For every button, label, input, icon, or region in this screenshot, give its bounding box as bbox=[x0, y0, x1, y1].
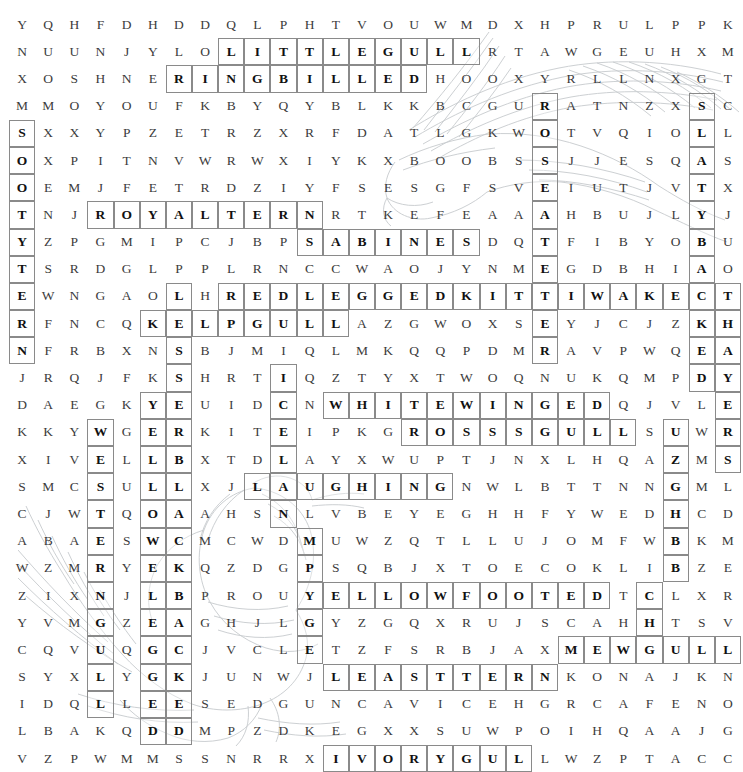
grid-cell[interactable]: E bbox=[610, 500, 636, 527]
grid-cell[interactable]: I bbox=[140, 229, 166, 256]
grid-cell[interactable]: Y bbox=[558, 500, 584, 527]
grid-cell[interactable]: V bbox=[715, 609, 741, 636]
grid-cell[interactable]: S bbox=[636, 147, 662, 174]
grid-cell[interactable]: U bbox=[114, 473, 140, 500]
grid-cell[interactable]: X bbox=[689, 38, 715, 65]
grid-cell[interactable]: S bbox=[401, 174, 427, 201]
grid-cell[interactable]: N bbox=[636, 473, 662, 500]
grid-cell[interactable]: X bbox=[114, 337, 140, 364]
grid-cell[interactable]: V bbox=[61, 446, 87, 473]
grid-cell[interactable]: F bbox=[35, 310, 61, 337]
grid-cell[interactable]: U bbox=[584, 174, 610, 201]
grid-cell[interactable]: C bbox=[218, 528, 244, 555]
grid-cell[interactable]: Y bbox=[87, 120, 113, 147]
grid-cell[interactable]: A bbox=[375, 120, 401, 147]
grid-cell-highlighted[interactable]: D bbox=[401, 65, 427, 92]
grid-cell-highlighted[interactable]: T bbox=[453, 664, 479, 691]
grid-cell[interactable]: U bbox=[610, 201, 636, 228]
grid-cell[interactable]: H bbox=[636, 256, 662, 283]
grid-cell-highlighted[interactable]: N bbox=[506, 392, 532, 419]
grid-cell-highlighted[interactable]: O bbox=[140, 500, 166, 527]
grid-cell-highlighted[interactable]: E bbox=[480, 664, 506, 691]
grid-cell[interactable]: T bbox=[584, 473, 610, 500]
grid-cell[interactable]: Z bbox=[35, 555, 61, 582]
grid-cell[interactable]: L bbox=[140, 256, 166, 283]
grid-cell-highlighted[interactable]: E bbox=[166, 392, 192, 419]
grid-cell[interactable]: H bbox=[610, 609, 636, 636]
grid-cell[interactable]: V bbox=[663, 174, 689, 201]
grid-cell[interactable]: X bbox=[532, 636, 558, 663]
grid-cell[interactable]: K bbox=[584, 555, 610, 582]
grid-cell-highlighted[interactable]: W bbox=[453, 392, 479, 419]
grid-cell[interactable]: F bbox=[375, 636, 401, 663]
grid-cell[interactable]: R bbox=[427, 636, 453, 663]
grid-cell-highlighted[interactable]: S bbox=[9, 120, 35, 147]
grid-cell[interactable]: S bbox=[401, 636, 427, 663]
grid-cell[interactable]: F bbox=[323, 174, 349, 201]
grid-cell-highlighted[interactable]: R bbox=[715, 419, 741, 446]
grid-cell[interactable]: K bbox=[401, 93, 427, 120]
grid-cell-highlighted[interactable]: K bbox=[636, 283, 662, 310]
grid-cell[interactable]: P bbox=[114, 120, 140, 147]
grid-cell[interactable]: V bbox=[61, 636, 87, 663]
grid-cell-highlighted[interactable]: Y bbox=[427, 745, 453, 772]
grid-cell-highlighted[interactable]: D bbox=[689, 364, 715, 391]
grid-cell[interactable]: E bbox=[480, 691, 506, 718]
grid-cell[interactable]: Q bbox=[114, 718, 140, 745]
grid-cell[interactable]: E bbox=[166, 120, 192, 147]
grid-cell-highlighted[interactable]: E bbox=[166, 310, 192, 337]
grid-cell[interactable]: Q bbox=[349, 555, 375, 582]
grid-cell[interactable]: R bbox=[218, 582, 244, 609]
grid-cell-highlighted[interactable]: L bbox=[270, 446, 296, 473]
grid-cell[interactable]: P bbox=[218, 718, 244, 745]
grid-cell[interactable]: K bbox=[192, 93, 218, 120]
grid-cell-highlighted[interactable]: E bbox=[532, 174, 558, 201]
grid-cell-highlighted[interactable]: N bbox=[270, 500, 296, 527]
grid-cell[interactable]: Q bbox=[297, 364, 323, 391]
grid-cell[interactable]: U bbox=[506, 93, 532, 120]
grid-cell[interactable]: U bbox=[506, 528, 532, 555]
grid-cell[interactable]: Q bbox=[610, 392, 636, 419]
grid-cell[interactable]: J bbox=[114, 582, 140, 609]
grid-cell[interactable]: V bbox=[584, 337, 610, 364]
grid-cell-highlighted[interactable]: O bbox=[375, 745, 401, 772]
grid-cell[interactable]: Q bbox=[114, 636, 140, 663]
grid-cell[interactable]: G bbox=[270, 691, 296, 718]
grid-cell[interactable]: Z bbox=[9, 582, 35, 609]
grid-cell[interactable]: R bbox=[453, 609, 479, 636]
grid-cell[interactable]: K bbox=[715, 11, 741, 38]
grid-cell-highlighted[interactable]: R bbox=[87, 555, 113, 582]
grid-cell[interactable]: W bbox=[244, 528, 270, 555]
grid-cell[interactable]: O bbox=[453, 310, 479, 337]
grid-cell[interactable]: Q bbox=[663, 337, 689, 364]
grid-cell[interactable]: X bbox=[663, 93, 689, 120]
grid-cell-highlighted[interactable]: T bbox=[87, 500, 113, 527]
grid-cell-highlighted[interactable]: I bbox=[297, 65, 323, 92]
grid-cell[interactable]: I bbox=[297, 147, 323, 174]
grid-cell[interactable]: B bbox=[87, 337, 113, 364]
grid-cell[interactable]: T bbox=[427, 528, 453, 555]
grid-cell[interactable]: T bbox=[453, 555, 479, 582]
grid-cell[interactable]: C bbox=[715, 93, 741, 120]
grid-cell[interactable]: M bbox=[9, 93, 35, 120]
grid-cell[interactable]: X bbox=[375, 147, 401, 174]
grid-cell[interactable]: J bbox=[689, 718, 715, 745]
grid-cell[interactable]: O bbox=[558, 555, 584, 582]
grid-cell[interactable]: G bbox=[689, 65, 715, 92]
grid-cell[interactable]: Y bbox=[35, 664, 61, 691]
grid-cell[interactable]: F bbox=[87, 11, 113, 38]
grid-cell-highlighted[interactable]: I bbox=[270, 364, 296, 391]
grid-cell[interactable]: M bbox=[636, 364, 662, 391]
grid-cell-highlighted[interactable]: E bbox=[558, 392, 584, 419]
grid-cell[interactable]: N bbox=[636, 65, 662, 92]
grid-cell[interactable]: I bbox=[636, 555, 662, 582]
grid-cell[interactable]: J bbox=[715, 201, 741, 228]
grid-cell[interactable]: X bbox=[297, 745, 323, 772]
grid-cell[interactable]: K bbox=[689, 664, 715, 691]
grid-cell[interactable]: G bbox=[375, 419, 401, 446]
grid-cell[interactable]: X bbox=[427, 609, 453, 636]
grid-cell-highlighted[interactable]: O bbox=[9, 147, 35, 174]
grid-cell[interactable]: P bbox=[61, 147, 87, 174]
grid-cell-highlighted[interactable]: E bbox=[297, 636, 323, 663]
grid-cell[interactable]: X bbox=[689, 582, 715, 609]
